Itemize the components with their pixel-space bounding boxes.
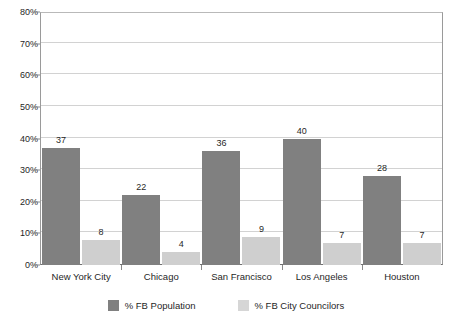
y-axis-tick-label: 30% [0,165,38,175]
bar[interactable]: 8 [82,240,120,265]
x-axis-tick [201,265,202,270]
chart-legend: % FB Population % FB City Councilors [0,300,452,311]
y-axis-tick [34,233,40,234]
bar[interactable]: 36 [202,151,240,265]
bar-value-label: 37 [56,135,66,145]
bar-value-label: 9 [259,224,264,234]
bar-value-label: 4 [179,239,184,249]
legend-swatch-fb-population [108,300,119,311]
y-axis-tick [34,43,40,44]
y-axis-tick [34,106,40,107]
x-axis-tick [121,265,122,270]
bar[interactable]: 9 [242,237,280,265]
bar[interactable]: 28 [363,176,401,265]
y-axis-tick-label: 60% [0,70,38,80]
bar[interactable]: 4 [162,252,200,265]
y-axis-tick-label: 80% [0,7,38,17]
bar-value-label: 40 [297,126,307,136]
y-axis-tick [34,75,40,76]
legend-label-fb-city-councilors: % FB City Councilors [255,300,345,311]
clipped-title [0,0,452,6]
bar[interactable]: 37 [42,148,80,265]
bar-value-label: 7 [339,230,344,240]
y-axis-tick-label: 0% [0,260,38,270]
bar-group: 369 [201,12,281,265]
bar-value-label: 22 [136,182,146,192]
y-axis-tick-label: 70% [0,39,38,49]
x-axis-category-label: Los Angeles [296,271,348,282]
bar[interactable]: 40 [283,139,321,266]
bar-value-label: 36 [216,138,226,148]
bar-group: 224 [121,12,201,265]
y-axis-tick-label: 10% [0,228,38,238]
y-axis-tick [34,201,40,202]
y-axis-tick-label: 50% [0,102,38,112]
bar-value-label: 28 [377,163,387,173]
y-axis-tick [34,265,40,266]
x-axis-category-label: Chicago [144,271,179,282]
bar-group: 287 [362,12,442,265]
x-axis-category-label: Houston [384,271,419,282]
bar-value-label: 7 [419,230,424,240]
y-axis-tick [34,138,40,139]
bar-chart: 0%10%20%30%40%50%60%70%80% 3782243694072… [0,0,452,326]
bar-group: 378 [41,12,121,265]
x-axis-tick [362,265,363,270]
legend-item-fb-city-councilors[interactable]: % FB City Councilors [238,300,345,311]
bar[interactable]: 22 [122,195,160,265]
y-axis-tick-label: 20% [0,197,38,207]
y-axis-tick [34,170,40,171]
bars-layer: 378224369407287 [41,12,442,265]
legend-label-fb-population: % FB Population [125,300,196,311]
bar[interactable]: 7 [323,243,361,265]
legend-item-fb-population[interactable]: % FB Population [108,300,196,311]
x-axis-category-label: New York City [52,271,111,282]
x-axis-tick [282,265,283,270]
bar-group: 407 [282,12,362,265]
bar-value-label: 8 [99,227,104,237]
legend-swatch-fb-city-councilors [238,300,249,311]
bar[interactable]: 7 [403,243,441,265]
y-axis-tick [34,12,40,13]
y-axis-tick-label: 40% [0,134,38,144]
x-axis-category-label: San Francisco [211,271,272,282]
